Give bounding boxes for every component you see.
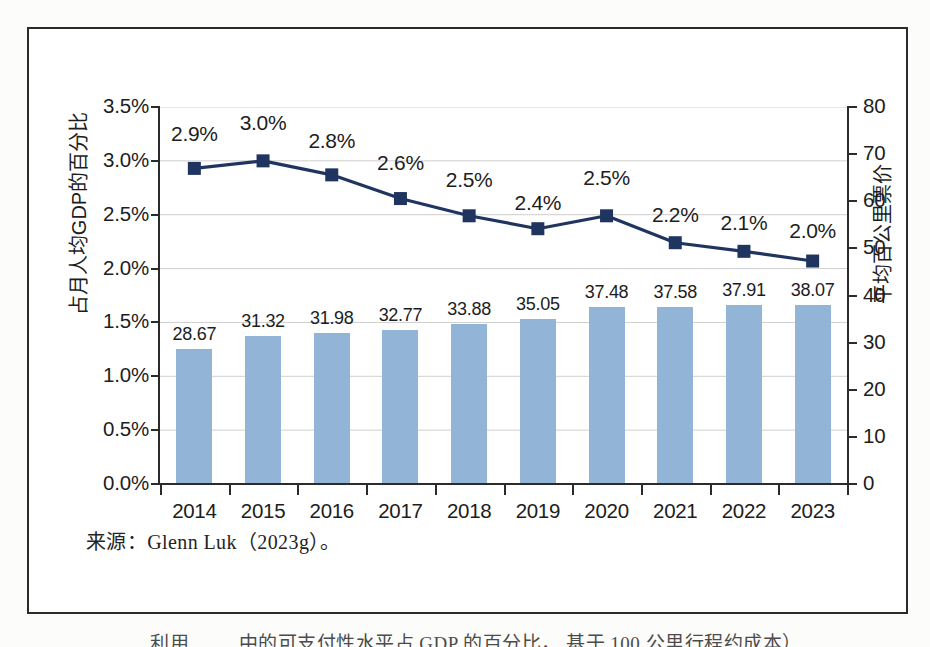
x-axis-tick [435, 485, 437, 495]
x-axis-tick [366, 485, 368, 495]
x-axis-tick [710, 485, 712, 495]
y-axis-left-tick [151, 214, 160, 216]
x-axis-tick [229, 485, 231, 495]
line-value-label: 2.5% [424, 168, 514, 192]
source-note: 来源：Glenn Luk（2023g）。 [86, 526, 340, 555]
x-axis-tick-label: 2021 [638, 499, 712, 523]
y-axis-left-tick [151, 106, 160, 108]
y-axis-right-tick [847, 247, 857, 249]
y-axis-left-tick-label: 0.0% [79, 471, 149, 495]
x-axis-tick [297, 485, 299, 495]
line-marker [463, 209, 476, 222]
x-axis-tick-label: 2016 [295, 499, 369, 523]
line-value-label: 2.8% [287, 129, 377, 153]
y-axis-left-title: 占月人均GDP的百分比 [63, 94, 92, 334]
line-value-label: 2.5% [562, 166, 652, 190]
line-marker [531, 222, 544, 235]
line-value-label: 2.0% [768, 219, 858, 243]
x-axis-tick-label: 2014 [157, 499, 231, 523]
line-marker [325, 168, 338, 181]
plot-area: 28.6731.3231.9832.7733.8835.0537.4837.58… [160, 107, 847, 484]
y-axis-right-tick [847, 389, 857, 391]
y-axis-right-tick [847, 200, 857, 202]
line-marker [600, 209, 613, 222]
x-axis-tick-label: 2023 [776, 499, 850, 523]
y-axis-right-tick-label: 80 [863, 94, 885, 118]
y-axis-right-tick [847, 295, 857, 297]
figure-frame: 28.6731.3231.9832.7733.8835.0537.4837.58… [27, 27, 908, 614]
x-axis-tick-label: 2022 [707, 499, 781, 523]
line-marker [806, 255, 819, 268]
line-marker [394, 192, 407, 205]
y-axis-right-tick [847, 153, 857, 155]
y-axis-left-tick [151, 268, 160, 270]
x-axis-tick-label: 2019 [501, 499, 575, 523]
line-value-label: 2.4% [493, 191, 583, 215]
y-axis-left-tick [151, 160, 160, 162]
line-series [160, 107, 847, 484]
x-axis-tick-label: 2015 [226, 499, 300, 523]
y-axis-right-tick [847, 436, 857, 438]
line-marker [669, 236, 682, 249]
x-axis-tick [641, 485, 643, 495]
y-axis-left-tick-label: 1.0% [79, 363, 149, 387]
x-axis-tick [160, 485, 162, 495]
x-axis-tick [847, 485, 849, 495]
y-axis-left-tick [151, 375, 160, 377]
page-background: 28.6731.3231.9832.7733.8835.0537.4837.58… [0, 0, 930, 647]
y-axis-left-tick [151, 321, 160, 323]
y-axis-right-tick-label: 0 [863, 471, 874, 495]
x-axis-tick [572, 485, 574, 495]
x-axis-tick [778, 485, 780, 495]
x-axis-tick-label: 2020 [570, 499, 644, 523]
y-axis-right-tick-label: 20 [863, 377, 885, 401]
line-marker [257, 154, 270, 167]
x-axis-tick [504, 485, 506, 495]
y-axis-left-tick [151, 429, 160, 431]
y-axis-right-tick [847, 342, 857, 344]
line-marker [737, 245, 750, 258]
line-marker [188, 162, 201, 175]
x-axis-tick-label: 2017 [363, 499, 437, 523]
y-axis-right-tick-label: 10 [863, 424, 885, 448]
y-axis-left-tick-label: 0.5% [79, 417, 149, 441]
y-axis-right-tick [847, 106, 857, 108]
y-axis-right-title: 平均百公里票价 [867, 134, 896, 334]
figure-caption-partial: 利用 …… 中的可支付性水平占 GDP 的百分比， 基于 100 公里行程约成本… [150, 628, 850, 647]
x-axis-tick-label: 2018 [432, 499, 506, 523]
